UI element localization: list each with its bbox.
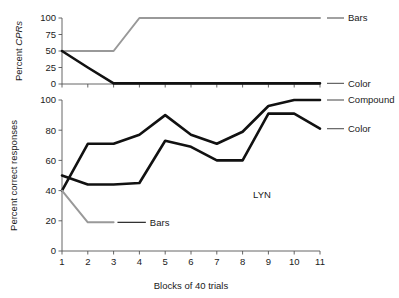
legend-item-bottom-color: Color [327, 123, 371, 134]
y-tick-label-bottom-0: 0 [51, 245, 56, 256]
legend-item-bottom-bars-inline: Bars [117, 217, 169, 228]
panel-bottom: 0204060801001234567891011Percent correct… [8, 94, 325, 291]
legend-item-top-bars: Bars [327, 12, 368, 23]
legend-label-bars-bottom: Bars [150, 217, 170, 228]
y-tick-label-top-2: 50 [45, 45, 56, 56]
y-tick-label-top-1: 25 [45, 62, 56, 73]
x-tick-label-bottom-3: 4 [137, 256, 142, 267]
series-line-bottom-bars [62, 191, 114, 223]
y-tick-label-bottom-1: 20 [45, 215, 56, 226]
x-tick-label-bottom-4: 5 [163, 256, 168, 267]
x-tick-label-bottom-10: 11 [315, 256, 325, 267]
y-axis-title-top: Percent CPRs [13, 21, 24, 81]
x-tick-label-bottom-7: 8 [240, 256, 245, 267]
legend-item-bottom-compound: Compound [327, 94, 394, 105]
y-tick-label-bottom-4: 80 [45, 125, 56, 136]
y-tick-label-top-4: 100 [40, 12, 56, 23]
x-tick-label-bottom-5: 6 [188, 256, 193, 267]
y-axis-title-bottom: Percent correct responses [8, 120, 19, 231]
legend-label-color-bottom: Color [348, 123, 371, 134]
x-tick-label-bottom-2: 3 [111, 256, 116, 267]
legend-label-color-top: Color [348, 78, 371, 89]
figure-root: 0255075100Percent CPRs020406080100123456… [0, 0, 399, 298]
x-tick-label-bottom-0: 1 [59, 256, 64, 267]
series-line-top-bars [62, 18, 320, 51]
legend-label-bars-top: Bars [348, 12, 368, 23]
x-axis-title: Blocks of 40 trials [154, 280, 229, 291]
series-line-top-color [62, 51, 320, 83]
y-tick-label-bottom-2: 40 [45, 185, 56, 196]
legend-item-top-color: Color [327, 78, 371, 89]
panel-top: 0255075100Percent CPRs [13, 12, 320, 89]
y-tick-label-top-3: 75 [45, 29, 56, 40]
x-tick-label-bottom-8: 9 [266, 256, 271, 267]
series-line-bottom-color [62, 114, 320, 185]
chart-canvas: 0255075100Percent CPRs020406080100123456… [0, 0, 399, 298]
x-tick-label-bottom-9: 10 [289, 256, 300, 267]
y-tick-label-top-0: 0 [51, 78, 56, 89]
x-tick-label-bottom-1: 2 [85, 256, 90, 267]
legend-label-compound-bottom: Compound [348, 94, 394, 105]
y-tick-label-bottom-3: 60 [45, 155, 56, 166]
y-tick-label-bottom-5: 100 [40, 94, 56, 105]
subject-annotation: LYN [253, 189, 271, 200]
x-tick-label-bottom-6: 7 [214, 256, 219, 267]
